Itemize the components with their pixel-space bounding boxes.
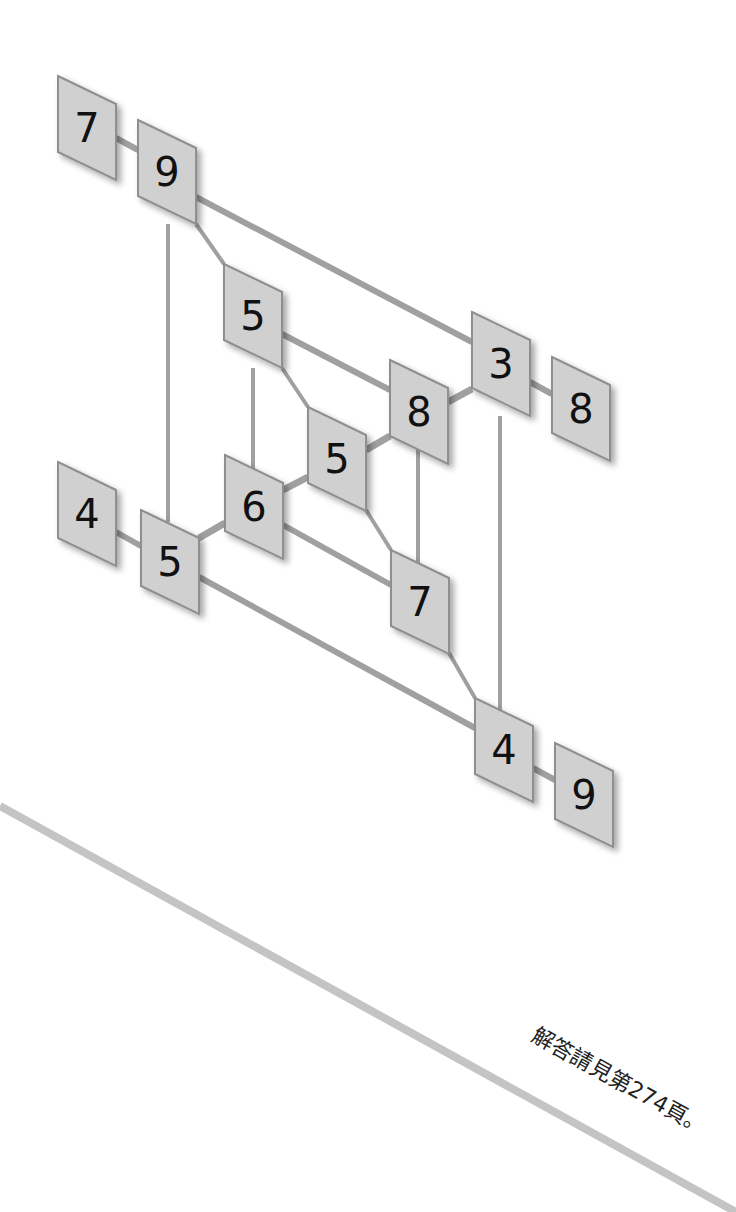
- edge-t-9-top-to-t-5-upper: [196, 224, 224, 264]
- tile-t-7-top: 7: [58, 76, 116, 180]
- tile-number: 7: [74, 105, 99, 151]
- edge-t-5-lower-left-to-t-6-center: [199, 523, 225, 538]
- tile-t-4-left: 4: [58, 462, 116, 566]
- tiles-layer: 7953885645749: [58, 76, 613, 847]
- tile-t-3-right: 3: [472, 312, 530, 416]
- edge-t-3-right-to-t-8-outer-right: [530, 382, 552, 394]
- tile-t-8-outer-right: 8: [552, 357, 610, 461]
- edge-t-6-center-to-t-7-lower: [283, 525, 391, 585]
- tile-number: 6: [241, 484, 266, 530]
- edge-t-7-top-to-t-9-top: [116, 138, 138, 150]
- tile-number: 5: [240, 293, 265, 339]
- edge-t-5-upper-to-t-8-center: [282, 334, 390, 390]
- tile-t-8-center: 8: [390, 360, 448, 464]
- edge-t-5-center-to-t-7-lower: [366, 510, 391, 550]
- tile-t-9-bottom: 9: [555, 743, 613, 847]
- tile-t-7-lower: 7: [391, 550, 449, 654]
- tile-number: 9: [571, 772, 596, 818]
- tile-t-5-lower-left: 5: [141, 510, 199, 614]
- edge-t-5-center-to-t-8-center: [366, 436, 390, 450]
- tile-number: 3: [488, 341, 513, 387]
- tile-number: 7: [407, 579, 432, 625]
- edge-t-7-lower-to-t-4-bottom: [449, 653, 475, 698]
- tile-t-4-bottom: 4: [475, 698, 533, 802]
- edge-t-6-center-to-t-5-center: [283, 477, 308, 490]
- edge-t-4-bottom-to-t-9-bottom: [533, 768, 555, 780]
- tile-number: 8: [406, 389, 431, 435]
- tile-t-5-center: 5: [308, 407, 366, 511]
- tile-t-6-center: 6: [225, 455, 283, 559]
- answer-reference-note: 解答請見第274頁。: [528, 1023, 712, 1140]
- tile-number: 5: [324, 436, 349, 482]
- tile-number: 4: [491, 727, 516, 773]
- tile-number: 9: [154, 149, 179, 195]
- edge-t-4-left-to-t-5-lower-left: [116, 532, 141, 546]
- footer-diagonal-stroke: [0, 806, 736, 1212]
- edge-t-8-center-to-t-3-right: [448, 389, 472, 402]
- tile-number: 5: [157, 539, 182, 585]
- tile-number: 8: [568, 386, 593, 432]
- tile-number: 4: [74, 491, 99, 537]
- edge-t-5-upper-to-t-5-center: [282, 368, 308, 407]
- tile-t-9-top: 9: [138, 120, 196, 224]
- tile-t-5-upper: 5: [224, 264, 282, 368]
- puzzle-diagram: 7953885645749 解答請見第274頁。: [0, 0, 736, 1212]
